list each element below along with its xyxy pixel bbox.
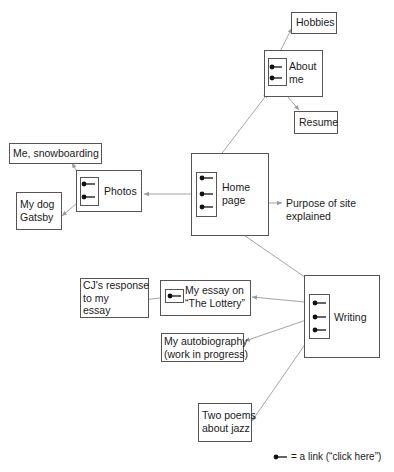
site-map-diagram [0, 0, 394, 472]
about-links-panel [269, 59, 287, 86]
node-purpose-line2: explained [286, 210, 356, 223]
node-about-line1: About [289, 60, 316, 73]
node-resume-label: Resume [299, 116, 338, 129]
node-autobiography-line2: (work in progress) [164, 348, 248, 361]
node-photos-label: Photos [104, 185, 137, 198]
photos-links-panel [81, 178, 99, 206]
node-poems-line1: Two poems [202, 409, 256, 422]
node-poems-line2: about jazz [202, 422, 256, 435]
node-about-label: About me [289, 60, 316, 85]
node-essay-line2: “The Lottery” [185, 297, 245, 310]
node-essay-label: My essay on “The Lottery” [185, 284, 245, 309]
node-cj-line2: to my [83, 292, 149, 305]
node-autobiography-line1: My autobiography [164, 335, 248, 348]
node-snowboarding-label: Me, snowboarding [13, 147, 99, 160]
node-about-line2: me [289, 73, 316, 86]
node-home-label: Home page [222, 181, 250, 206]
node-writing-label: Writing [334, 311, 366, 324]
node-essay-line1: My essay on [185, 284, 245, 297]
legend-link-icon [274, 455, 287, 460]
node-gatsby-line2: Gatsby [20, 211, 54, 224]
node-gatsby-line1: My dog [20, 198, 54, 211]
node-cj-label: CJ's response to my essay [83, 279, 149, 317]
node-purpose-label: Purpose of site explained [286, 197, 356, 222]
node-purpose-line1: Purpose of site [286, 197, 356, 210]
node-cj-line3: essay [83, 304, 149, 317]
legend-text: = a link (“click here”) [291, 451, 381, 464]
node-home-line2: page [222, 194, 250, 207]
node-autobiography-label: My autobiography (work in progress) [164, 335, 248, 360]
node-hobbies-label: Hobbies [296, 16, 335, 29]
node-home-line1: Home [222, 181, 250, 194]
node-gatsby-label: My dog Gatsby [20, 198, 54, 223]
node-poems-label: Two poems about jazz [202, 409, 256, 434]
link-glyphs [82, 65, 326, 460]
node-cj-line1: CJ's response [83, 279, 149, 292]
